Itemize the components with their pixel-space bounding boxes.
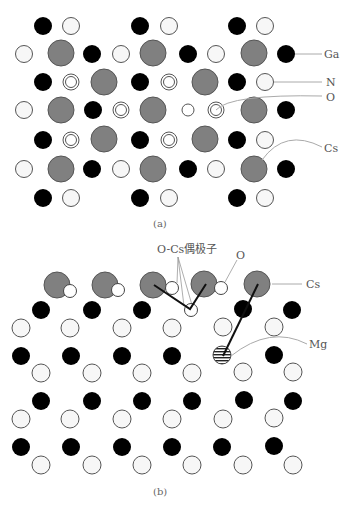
ga-atom — [179, 45, 197, 63]
ga-atom — [83, 301, 101, 319]
cs-atom — [91, 126, 117, 152]
n-atom — [12, 319, 30, 337]
o-atom — [64, 285, 77, 298]
ga-atom — [12, 438, 30, 456]
label-o: O — [326, 91, 335, 104]
ga-atom — [265, 346, 283, 364]
label-n: N — [326, 76, 336, 89]
n-atom — [32, 364, 50, 382]
ga-atom — [34, 189, 52, 207]
cs-atom — [192, 69, 218, 95]
n-atom — [83, 364, 101, 382]
o-atom — [166, 282, 179, 295]
panel-a: Ga N O Cs (a) — [16, 17, 340, 229]
ga-atom — [62, 438, 80, 456]
ga-atom — [83, 45, 101, 63]
ga-atom — [284, 392, 302, 410]
n-atom — [133, 456, 151, 474]
n-atom — [163, 410, 181, 428]
cs-atom — [48, 156, 74, 182]
ga-atom — [32, 301, 50, 319]
n-atom — [284, 456, 302, 474]
leader-dipole — [178, 257, 184, 306]
ga-atom — [283, 301, 301, 319]
cs-atom — [241, 40, 267, 66]
ga-atom — [34, 131, 52, 149]
o-atom — [63, 74, 79, 90]
n-atom — [208, 46, 225, 63]
leader-dipole — [177, 257, 178, 283]
label-cs: Cs — [324, 142, 338, 155]
n-atom — [61, 410, 79, 428]
n-atom — [284, 363, 302, 381]
cs-atom — [91, 69, 117, 95]
cs-atom — [140, 156, 166, 182]
ga-atom — [34, 73, 52, 91]
n-atom — [83, 456, 101, 474]
ga-atom — [228, 189, 246, 207]
cs-atom — [241, 156, 267, 182]
n-atom — [214, 318, 232, 336]
caption-a: (a) — [153, 218, 167, 229]
label-o-b: O — [236, 249, 245, 262]
o-atom — [161, 74, 177, 90]
ga-atom — [83, 392, 101, 410]
n-atom — [183, 364, 201, 382]
n-atom — [257, 18, 274, 35]
n-atom — [234, 363, 252, 381]
n-atom — [12, 410, 30, 428]
caption-b: (b) — [153, 486, 167, 497]
ga-atom — [228, 17, 246, 35]
ga-atom — [163, 438, 181, 456]
ga-atom — [213, 438, 231, 456]
ga-atom — [131, 189, 149, 207]
cs-atom — [192, 126, 218, 152]
ga-atom — [83, 160, 101, 178]
n-atom — [63, 190, 80, 207]
n-atom — [32, 456, 50, 474]
n-atom — [208, 161, 225, 178]
cs-atom — [241, 97, 267, 123]
ga-atom — [265, 437, 283, 455]
n-atom — [16, 161, 33, 178]
ga-atom — [228, 131, 246, 149]
ga-atom — [133, 392, 151, 410]
n-atom — [257, 132, 274, 149]
cs-atom — [48, 40, 74, 66]
ga-atom — [228, 73, 246, 91]
ga-atom — [113, 438, 131, 456]
ga-atom — [131, 131, 149, 149]
ga-atom — [34, 17, 52, 35]
ga-atom — [183, 392, 201, 410]
ga-atom — [113, 347, 131, 365]
n-atom — [133, 364, 151, 382]
diagram-canvas: Ga N O Cs (a) O-Cs偶极子 O Cs — [0, 0, 342, 508]
n-atom — [113, 410, 131, 428]
n-atom — [265, 318, 283, 336]
o-atom — [161, 132, 177, 148]
n-atom — [113, 319, 131, 337]
vacancy-small-n — [182, 104, 194, 116]
n-atom — [214, 410, 232, 428]
o-atom — [112, 284, 125, 297]
label-cs-b: Cs — [306, 278, 320, 291]
ga-atom — [131, 17, 149, 35]
n-atom — [61, 319, 79, 337]
mg-atom — [213, 346, 231, 364]
ga-atom — [32, 392, 50, 410]
n-atom — [257, 74, 274, 91]
ga-atom — [179, 160, 197, 178]
leader-o — [216, 96, 322, 110]
ga-atom — [84, 101, 102, 119]
cs-atom — [48, 97, 74, 123]
ga-atom — [277, 160, 295, 178]
ga-atom — [277, 45, 295, 63]
ga-atom — [62, 347, 80, 365]
n-atom — [234, 456, 252, 474]
label-dipole: O-Cs偶极子 — [157, 242, 217, 256]
ga-atom — [235, 391, 253, 409]
cs-atom — [140, 40, 166, 66]
n-atom — [113, 46, 130, 63]
n-atom — [113, 161, 130, 178]
cs-atom — [191, 271, 217, 297]
